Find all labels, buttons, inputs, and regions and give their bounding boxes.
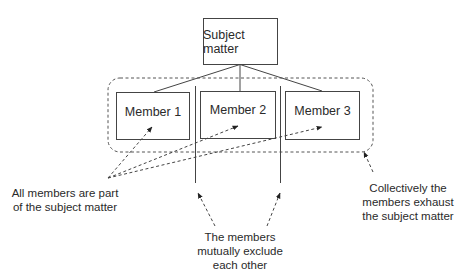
annotation-exclusive-line1: The members	[190, 230, 290, 244]
annotation-exhaustive-line2: members exhaust	[358, 195, 458, 209]
annotation-exclusive-line3: each other	[190, 258, 290, 272]
annotation-exhaustive-line1: Collectively the	[358, 181, 458, 195]
annotation-part-of: All members are part of the subject matt…	[10, 186, 120, 214]
member-label-3: Member 3	[285, 91, 360, 131]
exhaustive-arrow	[364, 152, 373, 172]
exclusion-arrows	[198, 193, 280, 226]
annotation-exclusive-line2: mutually exclude	[190, 244, 290, 258]
member-label-1: Member 1	[116, 92, 190, 132]
member-label-2: Member 2	[200, 91, 276, 129]
annotation-part-of-line1: All members are part	[10, 186, 120, 200]
annotation-exhaustive-line3: the subject matter	[358, 209, 458, 223]
annotation-part-of-line2: of the subject matter	[10, 200, 120, 214]
annotation-exhaustive: Collectively the members exhaust the sub…	[358, 181, 458, 223]
root-label: Subject matter	[203, 18, 278, 65]
annotation-exclusive: The members mutually exclude each other	[190, 230, 290, 272]
